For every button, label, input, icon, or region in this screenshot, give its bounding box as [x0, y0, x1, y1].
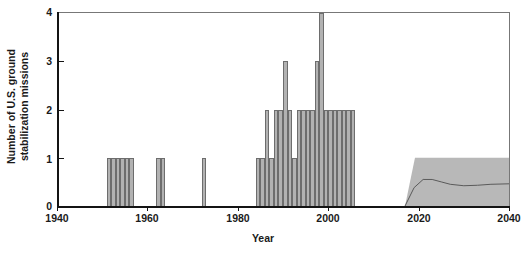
x-axis-line: [57, 206, 510, 208]
bar: [129, 158, 134, 206]
bar: [351, 110, 356, 207]
bar: [202, 158, 207, 206]
x-tick-label-1980: 1980: [216, 212, 260, 224]
chart-container: Number of U.S. ground stabilization miss…: [0, 0, 526, 255]
x-tick-label-2020: 2020: [397, 212, 441, 224]
y-axis-title-line2: stabilization missions: [17, 49, 30, 164]
y-tick-label-3: 3: [36, 55, 52, 67]
x-tick-mark: [509, 206, 510, 211]
x-tick-mark: [238, 206, 239, 211]
x-tick-mark: [419, 206, 420, 211]
x-tick-label-1960: 1960: [125, 212, 169, 224]
bar: [161, 158, 166, 206]
x-tick-label-1940: 1940: [35, 212, 79, 224]
y-tick-label-1: 1: [36, 153, 52, 165]
x-axis-title: Year: [0, 232, 526, 244]
x-tick-label-2040: 2040: [487, 212, 526, 224]
x-tick-label-2000: 2000: [306, 212, 350, 224]
x-tick-mark: [147, 206, 148, 211]
y-axis-title-line1: Number of U.S. ground: [5, 49, 18, 164]
x-tick-mark: [328, 206, 329, 211]
x-tick-mark: [57, 206, 58, 211]
y-tick-label-4: 4: [36, 6, 52, 18]
y-axis-title: Number of U.S. ground stabilization miss…: [0, 0, 34, 212]
y-tick-mark: [59, 61, 64, 62]
y-tick-label-2: 2: [36, 104, 52, 116]
y-tick-mark: [59, 158, 64, 159]
plot-area: [57, 12, 510, 208]
y-tick-label-0: 0: [36, 200, 52, 212]
y-tick-mark: [59, 110, 64, 111]
